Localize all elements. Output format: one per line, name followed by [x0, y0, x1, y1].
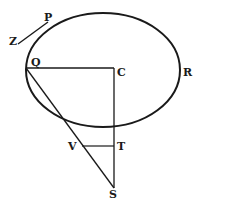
label-p: P: [44, 11, 52, 24]
label-q: Q: [31, 56, 41, 69]
line-qs: [26, 68, 114, 188]
label-z: Z: [9, 35, 17, 48]
label-s: S: [109, 188, 117, 201]
label-t: T: [117, 140, 126, 153]
label-r: R: [183, 66, 193, 79]
ellipse-curve: [26, 13, 180, 127]
label-v: V: [67, 140, 77, 153]
ellipse-diagram: P Z Q C R V T S: [0, 0, 225, 205]
label-c: C: [117, 66, 126, 79]
